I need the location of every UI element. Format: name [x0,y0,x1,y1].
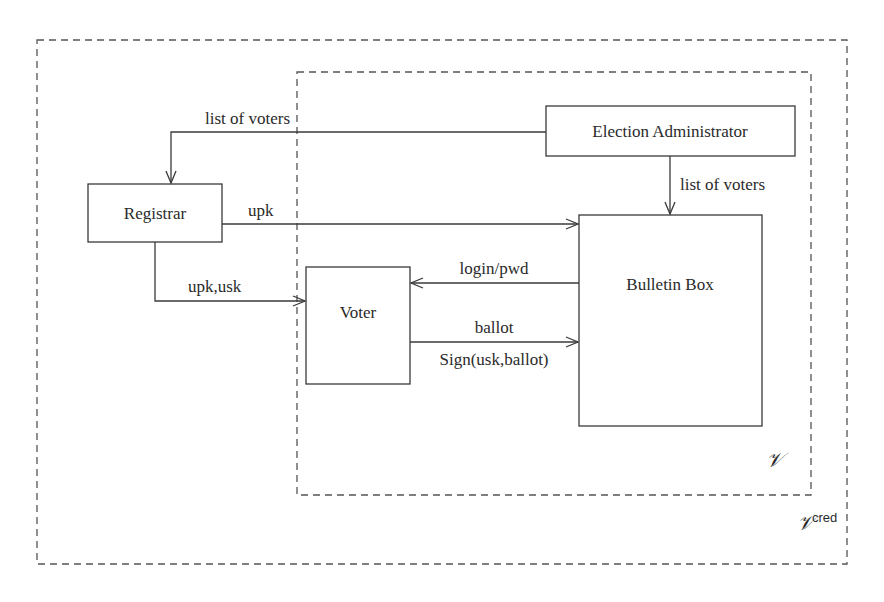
node-label: Election Administrator [592,122,748,141]
node-bulletin-box: Bulletin Box [579,215,762,426]
edge-label: Sign(usk,ballot) [439,350,548,369]
edge-label: upk,usk [188,277,242,296]
edge-label: login/pwd [460,259,529,278]
edge-label: list of voters [680,175,765,194]
edge-label: ballot [475,318,514,337]
node-registrar: Registrar [88,184,222,242]
voting-system-diagram: Election Administrator Registrar Voter B… [0,0,884,602]
edge-registrar-to-bulletin: upk [222,201,578,229]
edge-admin-to-bulletin: list of voters [665,156,765,214]
node-label: Bulletin Box [626,275,714,294]
node-election-administrator: Election Administrator [546,106,795,156]
edge-registrar-to-voter: upk,usk [155,242,305,306]
node-label: Voter [340,303,377,322]
edge-label: upk [248,201,274,220]
node-voter: Voter [306,267,410,384]
edge-voter-to-bulletin-ballot: ballot Sign(usk,ballot) [410,318,578,369]
region-v-cred-superscript: cred [812,510,837,525]
edge-label: list of voters [205,109,290,128]
region-v-label: 𝒱 [766,448,789,472]
node-label: Registrar [124,204,187,223]
region-v-cred-label: 𝒱 cred [797,510,837,535]
edge-admin-to-registrar: list of voters [166,109,546,183]
edge-bulletin-to-voter: login/pwd [411,259,579,288]
